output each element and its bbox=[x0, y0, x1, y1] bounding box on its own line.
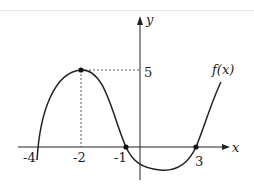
point-root-3 bbox=[193, 144, 198, 149]
function-graph: y x 5 -4 -2 -1 3 f(x) bbox=[0, 0, 254, 186]
tick-neg4: -4 bbox=[23, 150, 36, 165]
tick-neg2: -2 bbox=[73, 150, 86, 165]
tick-neg1: -1 bbox=[114, 150, 127, 165]
curve-f bbox=[37, 70, 221, 170]
x-axis-arrow-icon bbox=[222, 144, 230, 150]
x-label: x bbox=[232, 140, 240, 155]
point-root-neg1 bbox=[123, 144, 128, 149]
y-axis-arrow-icon bbox=[137, 16, 143, 25]
curve-label: f(x) bbox=[211, 62, 234, 77]
y-label: y bbox=[145, 12, 154, 27]
tick-3: 3 bbox=[195, 154, 203, 169]
point-max bbox=[78, 67, 83, 72]
tick-5: 5 bbox=[144, 65, 152, 80]
